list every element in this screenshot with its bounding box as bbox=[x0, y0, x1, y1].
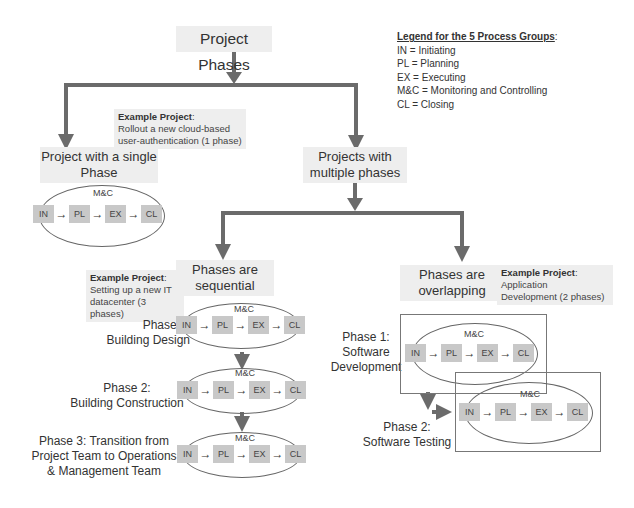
step-in: IN bbox=[177, 381, 198, 399]
seq-phase2-line1: Phase 2: bbox=[60, 381, 194, 396]
overlapping-label-line1: Phases are bbox=[400, 267, 504, 283]
legend-item-mc: M&C = Monitoring and Controlling bbox=[397, 84, 558, 98]
sequential-label-line2: sequential bbox=[176, 278, 274, 294]
step-cl: CL bbox=[285, 381, 306, 399]
ovl-phase1-line2: Software bbox=[330, 345, 402, 360]
arrow-icon: → bbox=[270, 445, 285, 463]
arrow-icon: → bbox=[269, 316, 284, 334]
step-cl: CL bbox=[513, 344, 534, 362]
sequential-example-box: Example Project: Setting up a new IT dat… bbox=[86, 270, 184, 322]
arrow-icon: → bbox=[426, 344, 441, 362]
ovl-phase1-label: Phase 1: Software Development bbox=[330, 330, 402, 375]
ovl-phase1-line1: Phase 1: bbox=[330, 330, 402, 345]
arrow-icon: → bbox=[462, 344, 477, 362]
step-ex: EX bbox=[477, 344, 498, 362]
sequential-box: Phases are sequential bbox=[176, 260, 274, 296]
seq-phase2-line2: Building Construction bbox=[60, 396, 194, 411]
step-pl: PL bbox=[441, 344, 462, 362]
seq-phase3-line3: & Management Team bbox=[28, 464, 180, 479]
arrow-icon: → bbox=[234, 381, 249, 399]
single-example-line1: Rollout a new cloud-based bbox=[118, 123, 242, 135]
step-ex: EX bbox=[248, 316, 269, 334]
ovl-phase2-mc: M&C bbox=[512, 389, 548, 399]
arrow-icon: → bbox=[270, 381, 285, 399]
step-pl: PL bbox=[213, 445, 234, 463]
ovl-phase2-line2: Software Testing bbox=[360, 435, 454, 450]
step-in: IN bbox=[176, 316, 197, 334]
step-ex: EX bbox=[105, 205, 126, 223]
step-cl: CL bbox=[567, 403, 588, 421]
overlapping-example-box: Example Project: Application Development… bbox=[497, 265, 613, 305]
seq-phase1-flow: IN → PL → EX → CL bbox=[176, 316, 305, 334]
arrow-icon: → bbox=[233, 316, 248, 334]
seq-phase3-line2: Project Team to Operations bbox=[28, 449, 180, 464]
single-mc-label: M&C bbox=[85, 188, 121, 198]
title-box: Project Phases bbox=[176, 26, 272, 52]
legend-item-ex: EX = Executing bbox=[397, 71, 558, 85]
arrow-icon: → bbox=[234, 445, 249, 463]
single-example-line2: user-authentication (1 phase) bbox=[118, 135, 242, 147]
step-cl: CL bbox=[284, 316, 305, 334]
arrow-icon: → bbox=[54, 205, 69, 223]
overlapping-example-heading: Example Project bbox=[501, 267, 575, 278]
step-in: IN bbox=[33, 205, 54, 223]
seq-phase2-label: Phase 2: Building Construction bbox=[60, 381, 194, 411]
arrow-icon: → bbox=[126, 205, 141, 223]
step-pl: PL bbox=[69, 205, 90, 223]
sequential-example-heading: Example Project bbox=[90, 272, 164, 283]
arrow-icon: → bbox=[480, 403, 495, 421]
seq-phase1-line2: Building Design bbox=[100, 333, 190, 348]
multiple-label-line2: multiple phases bbox=[303, 165, 407, 181]
single-example-heading: Example Project bbox=[118, 111, 192, 122]
ovl-phase1-line3: Development bbox=[330, 360, 402, 375]
seq-phase1-mc: M&C bbox=[226, 304, 262, 314]
arrow-icon: → bbox=[90, 205, 105, 223]
overlapping-label-line2: overlapping bbox=[400, 283, 504, 299]
multiple-label-line1: Projects with bbox=[303, 149, 407, 165]
single-phase-box: Project with a single Phase bbox=[40, 147, 158, 183]
seq-phase3-line1: Phase 3: Transition from bbox=[28, 434, 180, 449]
legend-item-in: IN = Initiating bbox=[397, 44, 558, 58]
step-ex: EX bbox=[249, 445, 270, 463]
step-in: IN bbox=[459, 403, 480, 421]
seq-phase3-label: Phase 3: Transition from Project Team to… bbox=[28, 434, 180, 479]
arrow-icon: → bbox=[198, 445, 213, 463]
overlapping-example-line2: Development (2 phases) bbox=[501, 291, 609, 303]
seq-phase2-mc: M&C bbox=[227, 368, 263, 378]
legend-item-pl: PL = Planning bbox=[397, 57, 558, 71]
seq-phase3-flow: IN → PL → EX → CL bbox=[177, 445, 306, 463]
overlapping-box: Phases are overlapping bbox=[400, 265, 504, 301]
single-label-line1: Project with a single bbox=[40, 149, 158, 165]
single-example-box: Example Project: Rollout a new cloud-bas… bbox=[114, 109, 246, 149]
step-in: IN bbox=[405, 344, 426, 362]
seq-phase2-flow: IN → PL → EX → CL bbox=[177, 381, 306, 399]
sequential-label-line1: Phases are bbox=[176, 262, 274, 278]
step-ex: EX bbox=[249, 381, 270, 399]
seq-phase3-mc: M&C bbox=[227, 433, 263, 443]
ovl-phase2-flow: IN → PL → EX → CL bbox=[459, 403, 588, 421]
ovl-phase2-line1: Phase 2: bbox=[360, 420, 454, 435]
ovl-phase1-flow: IN → PL → EX → CL bbox=[405, 344, 534, 362]
single-process-flow: IN → PL → EX → CL bbox=[33, 205, 162, 223]
sequential-example-line2: datacenter (3 phases) bbox=[90, 296, 180, 320]
sequential-example-line1: Setting up a new IT bbox=[90, 284, 180, 296]
arrow-icon: → bbox=[498, 344, 513, 362]
step-pl: PL bbox=[212, 316, 233, 334]
arrow-icon: → bbox=[516, 403, 531, 421]
arrow-icon: → bbox=[552, 403, 567, 421]
step-cl: CL bbox=[285, 445, 306, 463]
arrow-icon: → bbox=[198, 381, 213, 399]
legend-heading: Legend for the 5 Process Groups bbox=[397, 31, 555, 42]
step-pl: PL bbox=[495, 403, 516, 421]
ovl-phase2-label: Phase 2: Software Testing bbox=[360, 420, 454, 450]
step-cl: CL bbox=[141, 205, 162, 223]
single-label-line2: Phase bbox=[40, 165, 158, 181]
ovl-phase1-mc: M&C bbox=[456, 329, 492, 339]
step-in: IN bbox=[177, 445, 198, 463]
overlapping-example-line1: Application bbox=[501, 279, 609, 291]
legend: Legend for the 5 Process Groups: IN = In… bbox=[397, 30, 558, 111]
arrow-icon: → bbox=[197, 316, 212, 334]
multiple-phases-box: Projects with multiple phases bbox=[303, 147, 407, 183]
step-ex: EX bbox=[531, 403, 552, 421]
legend-item-cl: CL = Closing bbox=[397, 98, 558, 112]
